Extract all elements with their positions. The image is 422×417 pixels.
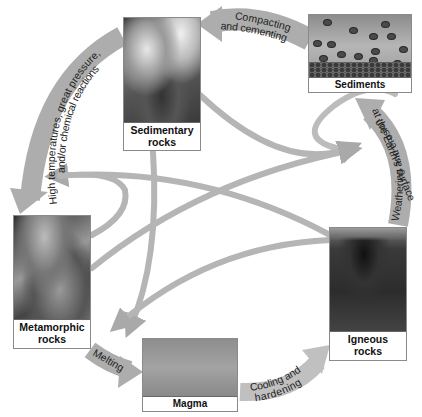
grain <box>337 51 346 58</box>
sediment-bed <box>309 62 411 77</box>
sediments-photo <box>309 15 411 77</box>
grain <box>369 33 378 40</box>
grain <box>354 53 363 60</box>
igneous-rocks-photo <box>330 228 406 333</box>
grain <box>319 55 328 62</box>
grain <box>381 21 390 28</box>
node-sediments: Sediments <box>308 14 412 93</box>
node-magma: Magma <box>142 338 238 412</box>
grain <box>349 27 358 34</box>
node-label-line2: rocks <box>14 333 90 345</box>
node-label: Sedimentary rocks <box>124 122 200 150</box>
node-label: Magma <box>143 396 237 411</box>
node-label: Sediments <box>309 77 411 92</box>
node-label-line1: Sedimentary <box>124 124 200 136</box>
grain <box>371 48 380 55</box>
grain <box>313 40 322 47</box>
arrow-metamorphic-to-sediments <box>92 150 352 268</box>
grain <box>327 41 336 48</box>
grain <box>323 19 332 26</box>
node-label: Igneous rocks <box>330 331 406 360</box>
node-label-line1: Igneous <box>330 333 406 345</box>
sedimentary-rocks-photo <box>124 18 200 123</box>
magma-photo <box>143 339 237 397</box>
node-label: Metamorphic rocks <box>14 319 90 348</box>
metamorphic-rocks-photo <box>14 216 90 321</box>
node-metamorphic-rocks: Metamorphic rocks <box>13 215 91 349</box>
node-label-line2: rocks <box>124 136 200 148</box>
arrow-metamorphism-head <box>10 188 48 214</box>
grain <box>387 33 396 40</box>
node-label-line2: rocks <box>330 345 406 357</box>
node-label-line1: Metamorphic <box>14 321 90 333</box>
node-sedimentary-rocks: Sedimentary rocks <box>123 17 201 151</box>
grain <box>399 46 408 53</box>
node-igneous-rocks: Igneous rocks <box>329 227 407 361</box>
